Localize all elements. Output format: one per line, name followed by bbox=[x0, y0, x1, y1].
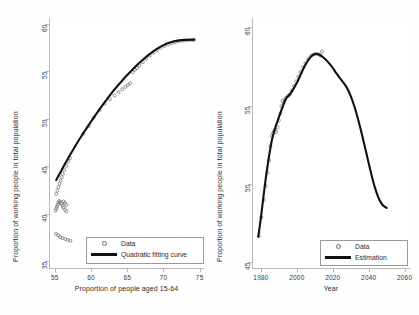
data-point bbox=[60, 176, 63, 179]
fitted-curve bbox=[56, 40, 194, 180]
x-tick-label: 65 bbox=[113, 274, 141, 281]
legend-label-estimation: Estimation bbox=[355, 254, 387, 261]
x-tick-label: 2040 bbox=[355, 274, 383, 281]
data-point bbox=[321, 50, 324, 53]
legend-label-fit: Quadratic fitting curve bbox=[121, 251, 187, 258]
x-tick bbox=[297, 268, 298, 272]
x-tick bbox=[91, 268, 92, 272]
x-tick bbox=[405, 268, 406, 272]
legend-row-data[interactable]: Data bbox=[87, 238, 203, 249]
data-point bbox=[55, 207, 58, 210]
legend-row-estimation[interactable]: Estimation bbox=[321, 252, 407, 263]
y-axis-line-left bbox=[49, 18, 50, 268]
x-tick-label: 2000 bbox=[283, 274, 311, 281]
y-tick-label: 60 bbox=[244, 28, 251, 36]
x-tick bbox=[163, 268, 164, 272]
y-axis-title-left: Proportion of working people in total po… bbox=[12, 111, 19, 262]
x-tick bbox=[333, 268, 334, 272]
data-point bbox=[56, 189, 59, 192]
y-tick-label: 60 bbox=[41, 24, 48, 32]
x-axis-title-left: Proportion of people aged 15-64 bbox=[49, 285, 204, 292]
plot-area-right bbox=[252, 18, 410, 268]
chart-panel-left: 5560657075354045505560 Proportion of wor… bbox=[0, 0, 209, 315]
y-tick-label: 40 bbox=[41, 214, 48, 222]
x-tick bbox=[127, 268, 128, 272]
y-tick-label: 50 bbox=[244, 184, 251, 192]
left-curve-and-points bbox=[49, 18, 204, 268]
x-tick-label: 1980 bbox=[247, 274, 275, 281]
data-point bbox=[61, 172, 64, 175]
x-tick-label: 2060 bbox=[391, 274, 419, 281]
two-panel-figure: 5560657075354045505560 Proportion of wor… bbox=[0, 0, 419, 315]
legend-marker-line-icon bbox=[87, 253, 121, 255]
data-point bbox=[56, 203, 59, 206]
x-tick-label: 70 bbox=[149, 274, 177, 281]
y-tick-label: 45 bbox=[41, 167, 48, 175]
x-tick bbox=[369, 268, 370, 272]
legend-left[interactable]: Data Quadratic fitting curve bbox=[86, 237, 204, 264]
x-axis-line-right bbox=[252, 268, 410, 269]
legend-label-data: Data bbox=[355, 243, 369, 250]
right-curve-and-points bbox=[252, 18, 410, 268]
x-tick bbox=[55, 268, 56, 272]
plot-area-left bbox=[49, 18, 204, 268]
x-tick bbox=[200, 268, 201, 272]
y-tick-label: 55 bbox=[41, 72, 48, 80]
legend-marker-line-icon bbox=[321, 256, 355, 258]
y-axis-title-right: Proportion of working people in total po… bbox=[216, 111, 223, 262]
legend-row-fit[interactable]: Quadratic fitting curve bbox=[87, 249, 203, 260]
x-axis-title-right: Year bbox=[252, 285, 410, 292]
data-point bbox=[117, 91, 120, 94]
x-tick-label: 2020 bbox=[319, 274, 347, 281]
legend-label-data: Data bbox=[121, 240, 135, 247]
y-axis-line-right bbox=[252, 18, 253, 268]
data-point bbox=[55, 205, 58, 208]
data-point bbox=[113, 94, 116, 97]
legend-marker-circle-icon bbox=[321, 244, 355, 249]
data-point bbox=[121, 88, 124, 91]
legend-row-data[interactable]: Data bbox=[321, 241, 407, 252]
data-point bbox=[129, 82, 132, 85]
data-point bbox=[59, 179, 62, 182]
y-tick-label: 50 bbox=[41, 119, 48, 127]
y-tick-label: 55 bbox=[244, 106, 251, 114]
x-tick-label: 55 bbox=[41, 274, 69, 281]
y-tick-label: 35 bbox=[41, 262, 48, 270]
data-point bbox=[55, 192, 58, 195]
data-point bbox=[57, 186, 60, 189]
y-tick-label: 45 bbox=[244, 262, 251, 270]
x-tick bbox=[261, 268, 262, 272]
x-tick-label: 60 bbox=[77, 274, 105, 281]
data-point bbox=[54, 209, 57, 212]
chart-panel-right: 1980200020202040206045505560 Proportion … bbox=[210, 0, 419, 315]
fitted-curve bbox=[258, 54, 386, 237]
data-point bbox=[58, 182, 61, 185]
legend-right[interactable]: Data Estimation bbox=[320, 240, 408, 266]
legend-marker-circle-icon bbox=[87, 241, 121, 246]
